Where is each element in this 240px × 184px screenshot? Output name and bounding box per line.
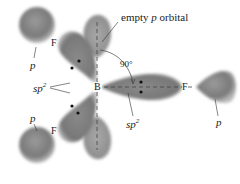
sp2-label-right: sp2	[126, 118, 139, 130]
angle-label: 90°	[120, 60, 133, 69]
bf3-orbital-diagram: empty p orbital 90° B F F F p p p sp2 sp…	[0, 0, 240, 184]
sp2-superscript: 2	[136, 117, 140, 125]
label-text: empty	[121, 11, 151, 23]
fluorine-right-label: F	[182, 82, 188, 92]
p-label-bottom-left: p	[30, 113, 36, 124]
label-text: orbital	[157, 11, 188, 23]
p-label-right: p	[216, 117, 222, 128]
leader-p-top-left	[34, 47, 36, 58]
empty-p-orbital-label: empty p orbital	[121, 12, 188, 23]
p-label-top-left: p	[30, 60, 36, 71]
fluorine-bottom-label: F	[51, 126, 57, 136]
boron-atom-label: B	[93, 82, 102, 92]
p-orbital-top-left	[19, 7, 55, 43]
p-orbital-right	[196, 71, 236, 103]
p-orbital-bottom-left	[19, 127, 55, 163]
leader-sp2-left-a	[50, 83, 70, 87]
sp2-base: sp	[126, 118, 136, 130]
sp2-label-left: sp2	[33, 82, 46, 94]
leader-sp2-left-b	[50, 88, 70, 93]
sp2-superscript: 2	[43, 81, 47, 89]
fluorine-top-label: F	[51, 38, 57, 48]
sp2-base: sp	[33, 82, 43, 94]
